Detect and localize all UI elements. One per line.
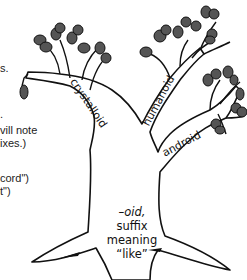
trunk-caption-line1: –oid, <box>97 205 167 219</box>
trunk-caption-line2: suffix <box>97 219 167 233</box>
trunk-caption-line4: “like” <box>97 247 167 261</box>
trunk-caption-line3: meaning <box>97 233 167 247</box>
trunk-caption: –oid, suffix meaning “like” <box>97 205 167 261</box>
